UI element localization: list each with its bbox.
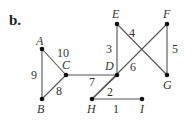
node-G — [165, 73, 170, 78]
edge-weight-label: 3 — [106, 42, 112, 56]
node-F — [165, 22, 170, 27]
edge-weight-label: 7 — [89, 75, 95, 89]
edge-weight-label: 5 — [172, 42, 178, 56]
node-label: G — [163, 78, 172, 92]
edge-weight-label: 1 — [113, 102, 119, 116]
node-label: H — [86, 102, 97, 116]
edge-weight-label: 9 — [31, 68, 37, 82]
node-label: I — [139, 102, 145, 116]
node-label: B — [37, 102, 45, 116]
node-D — [115, 73, 120, 78]
node-C — [64, 73, 69, 78]
edge-weight-label: 4 — [129, 26, 135, 40]
node-label: C — [62, 58, 71, 72]
node-label: D — [104, 59, 114, 73]
node-B — [40, 97, 45, 102]
node-label: A — [35, 34, 44, 48]
edge-B-C — [42, 75, 66, 99]
edge-weight-label: 6 — [130, 60, 136, 74]
edge-weight-label: 8 — [56, 84, 62, 98]
weighted-graph: 10987346512 ABCDEFGHI — [0, 0, 192, 122]
node-label: F — [162, 7, 171, 21]
node-I — [140, 97, 145, 102]
node-H — [90, 97, 95, 102]
graph-nodes: ABCDEFGHI — [35, 7, 172, 116]
node-E — [115, 22, 120, 27]
edge-weight-label: 2 — [107, 85, 113, 99]
node-label: E — [111, 7, 120, 21]
edge-D-H — [92, 75, 117, 99]
